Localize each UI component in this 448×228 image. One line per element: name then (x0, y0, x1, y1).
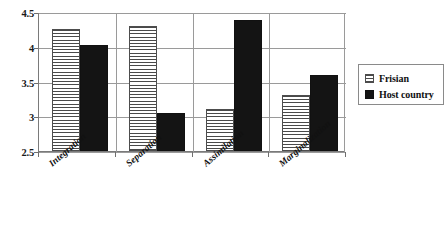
legend-label: Host country (379, 89, 434, 100)
plot-area (38, 13, 345, 152)
y-tick-label: 4.5 (21, 8, 34, 19)
x-tick-mark (38, 152, 39, 157)
y-tick-label: 2.5 (21, 147, 34, 158)
striped-swatch-icon (365, 74, 374, 83)
solid-black-swatch-icon (365, 90, 374, 99)
category-separator (193, 13, 194, 152)
x-tick-mark (268, 152, 269, 157)
legend-label: Frisian (379, 73, 409, 84)
bar-frisian-integration (52, 29, 80, 151)
bar-host-country-separation (157, 113, 185, 151)
category-separator (269, 13, 270, 152)
plot-right-edge (344, 13, 345, 152)
legend-item-host-country: Host country (365, 86, 443, 102)
x-tick-mark (345, 152, 346, 157)
bar-frisian-separation (129, 26, 157, 151)
y-axis: 2.533.544.5 (0, 13, 34, 152)
category-separator (116, 13, 117, 152)
y-tick-label: 3.5 (21, 77, 34, 88)
legend-item-frisian: Frisian (365, 70, 443, 86)
grouped-bar-chart: 2.533.544.5 IntegrationSeparationAssimil… (0, 0, 448, 228)
x-tick-mark (115, 152, 116, 157)
x-tick-mark (192, 152, 193, 157)
legend: Frisian Host country (358, 64, 444, 105)
